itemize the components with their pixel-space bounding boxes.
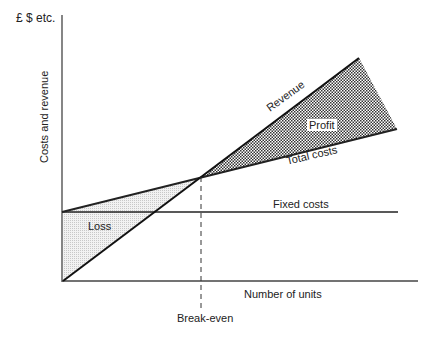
fixed-costs-label: Fixed costs (273, 198, 329, 210)
revenue-line (63, 58, 359, 281)
y-axis-label: Costs and revenue (38, 71, 50, 163)
loss-label: Loss (88, 220, 111, 232)
break-even-label: Break-even (177, 312, 233, 324)
x-axis-label: Number of units (244, 288, 322, 300)
break-even-chart (0, 0, 433, 339)
y-unit-label: £ $ etc. (16, 11, 55, 25)
profit-label: Profit (307, 119, 337, 131)
total-costs-line (62, 129, 397, 212)
